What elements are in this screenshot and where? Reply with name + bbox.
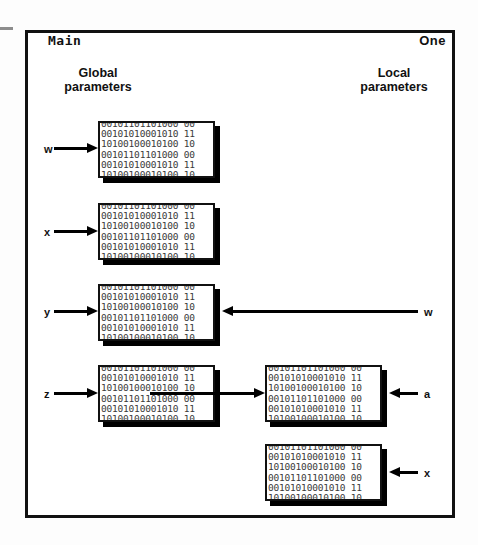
subtitle-global-line1: Global (28, 66, 168, 80)
arrow-head (87, 143, 98, 153)
label-a-right: a (424, 388, 430, 400)
label-y-left: y (44, 306, 50, 318)
arrow-shaft (54, 230, 89, 233)
arrow-x-to-block (54, 226, 98, 237)
arrow-z-block-to-a-block (150, 388, 265, 399)
heading-main: Main (48, 33, 81, 48)
arrow-a-to-block (389, 388, 418, 399)
subtitle-global-parameters: Global parameters (28, 66, 168, 94)
arrow-shaft (150, 392, 256, 395)
arrow-head (389, 467, 400, 477)
arrow-head (389, 388, 400, 398)
memory-block-x: 00101101101000 00 00101010001010 11 1010… (98, 203, 215, 260)
arrow-shaft (398, 471, 418, 474)
label-x-left: x (44, 226, 50, 238)
memory-block-w: 00101101101000 00 00101010001010 11 1010… (98, 121, 215, 178)
arrow-head (87, 306, 98, 316)
diagram-canvas: Main One Global parameters Local paramet… (0, 0, 478, 545)
subtitle-local-line2: parameters (324, 80, 464, 94)
arrow-y-to-block (54, 306, 98, 317)
memory-bits: 00101101101000 00 00101010001010 11 1010… (101, 203, 215, 260)
arrow-head (87, 226, 98, 236)
arrow-head (87, 388, 98, 398)
arrow-shaft (54, 147, 89, 150)
arrow-shaft (54, 310, 89, 313)
memory-block-x-local: 00101101101000 00 00101010001010 11 1010… (265, 444, 382, 501)
memory-block-a: 00101101101000 00 00101010001010 11 1010… (265, 365, 382, 422)
label-w-right: w (424, 306, 433, 318)
heading-one: One (419, 33, 446, 48)
label-w-left: w (44, 143, 53, 155)
arrow-z-to-block (54, 388, 98, 399)
subtitle-local-line1: Local (324, 66, 464, 80)
arrow-w-to-block (54, 143, 98, 154)
memory-bits: 00101101101000 00 00101010001010 11 1010… (268, 444, 382, 501)
memory-bits: 00101101101000 00 00101010001010 11 1010… (101, 121, 215, 178)
subtitle-global-line2: parameters (28, 80, 168, 94)
diagram-frame (25, 30, 455, 518)
arrow-shaft (54, 392, 89, 395)
subtitle-local-parameters: Local parameters (324, 66, 464, 94)
label-x-right: x (424, 467, 430, 479)
corner-tick-mark (0, 27, 13, 30)
label-z-left: z (44, 388, 50, 400)
arrow-head (254, 388, 265, 398)
arrow-shaft (231, 310, 418, 313)
memory-bits: 00101101101000 00 00101010001010 11 1010… (101, 284, 215, 341)
arrow-x-to-local-block (389, 467, 418, 478)
arrow-w-right-to-y-block (222, 306, 418, 317)
memory-bits: 00101101101000 00 00101010001010 11 1010… (268, 365, 382, 422)
arrow-head (222, 306, 233, 316)
arrow-shaft (398, 392, 418, 395)
memory-block-y: 00101101101000 00 00101010001010 11 1010… (98, 284, 215, 341)
